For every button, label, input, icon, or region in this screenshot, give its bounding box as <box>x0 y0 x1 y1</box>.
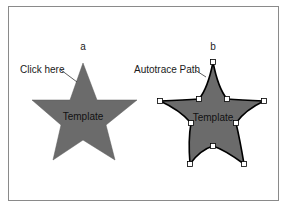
handle-node[interactable] <box>188 162 193 167</box>
handle-node[interactable] <box>262 99 267 104</box>
handle-node[interactable] <box>211 144 216 149</box>
handle-node[interactable] <box>234 121 239 126</box>
handle-node[interactable] <box>225 97 230 102</box>
template-label-b: Template <box>193 112 234 123</box>
autotrace-path-callout: Autotrace Path <box>134 64 200 75</box>
template-label-a: Template <box>63 111 104 122</box>
click-here-callout: Click here <box>20 64 65 75</box>
diagram-canvas: a Template Click here b Template Autotra… <box>0 0 285 210</box>
handle-node[interactable] <box>197 97 202 102</box>
panel-a: a Template Click here <box>20 41 137 160</box>
panel-a-label: a <box>80 41 86 52</box>
panel-b-label: b <box>210 41 216 52</box>
handle-node[interactable] <box>242 162 247 167</box>
panel-b: b Template Autotrace Path <box>134 41 267 167</box>
handle-node[interactable] <box>211 60 216 65</box>
click-here-leader-line <box>61 70 77 82</box>
handle-node[interactable] <box>158 99 163 104</box>
handle-node[interactable] <box>189 121 194 126</box>
